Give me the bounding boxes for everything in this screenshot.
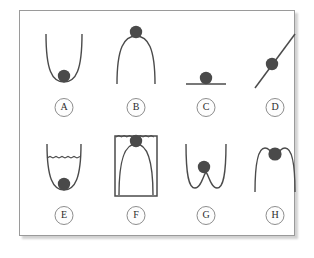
panel-a: A <box>31 22 97 122</box>
panel-b: B <box>103 22 169 122</box>
panel-label-b: B <box>127 98 146 117</box>
wavy-level-surface-line <box>47 156 80 158</box>
panel-f: F <box>103 130 169 230</box>
panel-c-artwork <box>173 22 239 98</box>
panel-d-artwork <box>242 22 308 98</box>
panel-e: E <box>31 130 97 230</box>
panel-h: H <box>242 130 308 230</box>
panel-label-e: E <box>55 206 74 225</box>
ball <box>268 147 281 160</box>
ball <box>130 135 142 147</box>
panel-label-f: F <box>127 206 146 225</box>
panel-d: D <box>242 22 308 122</box>
ball <box>58 70 70 82</box>
panel-g: G <box>173 130 239 230</box>
ball <box>58 178 70 190</box>
inverted-parabola-hill-curve <box>117 36 155 84</box>
panel-e-artwork <box>31 130 97 206</box>
ball <box>200 72 212 84</box>
figure-frame: A B C D <box>19 10 295 236</box>
panel-f-artwork <box>103 130 169 206</box>
dome-curve <box>119 144 153 195</box>
panel-g-artwork <box>173 130 239 206</box>
panel-b-artwork <box>103 22 169 98</box>
panel-label-d: D <box>266 98 285 117</box>
ball <box>266 58 278 70</box>
ball <box>198 161 210 173</box>
panel-label-c: C <box>197 98 216 117</box>
panel-h-artwork <box>242 130 308 206</box>
panel-c: C <box>173 22 239 122</box>
panel-label-a: A <box>55 98 74 117</box>
panel-label-h: H <box>266 206 285 225</box>
ball <box>130 26 142 38</box>
panel-a-artwork <box>31 22 97 98</box>
panel-label-g: G <box>197 206 216 225</box>
